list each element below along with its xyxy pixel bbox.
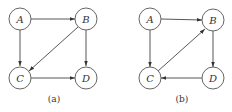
svg-text:A: A <box>15 14 23 25</box>
edge-b-C-B <box>158 29 205 71</box>
node-b-D: D <box>202 67 224 89</box>
caption-b: (b) <box>176 94 189 104</box>
svg-text:B: B <box>81 14 89 25</box>
svg-text:D: D <box>81 73 90 84</box>
node-b-B: B <box>202 9 224 31</box>
svg-text:D: D <box>208 73 217 84</box>
edge-a-B-C <box>29 27 78 71</box>
node-b-A: A <box>139 8 161 30</box>
svg-text:B: B <box>208 15 216 26</box>
node-a-D: D <box>75 67 97 89</box>
svg-text:C: C <box>16 73 24 84</box>
edge-b-A-B <box>161 19 202 20</box>
graph-b: A B C D (b) <box>139 8 224 104</box>
svg-text:A: A <box>145 14 153 25</box>
graph-diagrams: A B C D (a) A B C <box>0 0 232 112</box>
graph-a: A B C D (a) <box>9 8 97 104</box>
node-a-A: A <box>9 8 31 30</box>
svg-text:C: C <box>146 73 154 84</box>
node-a-B: B <box>75 8 97 30</box>
node-a-C: C <box>9 67 31 89</box>
node-b-C: C <box>139 67 161 89</box>
caption-a: (a) <box>48 94 60 104</box>
